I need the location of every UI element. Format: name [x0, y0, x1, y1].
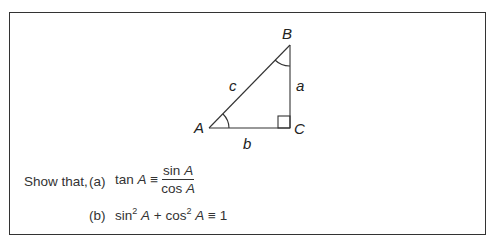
exponent: 2: [187, 206, 192, 216]
plus-sign: +: [154, 208, 162, 223]
identity-symbol: ≡: [150, 172, 158, 187]
side-a-label: a: [296, 77, 304, 94]
vertex-c-label: C: [294, 120, 305, 137]
numerator: sin A: [162, 163, 194, 180]
fraction: sin A cos A: [161, 163, 195, 196]
part-b-label: (b): [89, 208, 106, 223]
sin-fn: sin: [163, 163, 180, 178]
denominator: cos A: [161, 180, 195, 196]
side-c-label: c: [229, 77, 237, 94]
cos-fn: cos: [165, 208, 186, 223]
var-a: A: [184, 163, 193, 178]
vertex-b-label: B: [282, 25, 292, 42]
angle-b-arc: [275, 60, 290, 66]
side-b-label: b: [243, 135, 251, 152]
tan-fn: tan: [115, 172, 134, 187]
vertex-a-label: A: [193, 119, 204, 136]
part-a-equation: tan A ≡ sin A cos A: [115, 163, 195, 196]
angle-a-arc: [223, 114, 229, 128]
var-a: A: [195, 208, 204, 223]
exponent: 2: [132, 206, 137, 216]
right-triangle-diagram: A B C a b c: [0, 0, 496, 242]
sin-fn: sin: [115, 208, 132, 223]
var-a: A: [138, 172, 147, 187]
var-a: A: [141, 208, 150, 223]
prompt-text: Show that,: [24, 174, 88, 189]
right-angle-marker: [278, 116, 290, 128]
identity-symbol: ≡: [208, 208, 216, 223]
var-a: A: [186, 181, 195, 196]
part-a-label: (a): [89, 174, 106, 189]
part-b-equation: sin2 A + cos2 A ≡ 1: [115, 208, 227, 223]
cos-fn: cos: [161, 181, 182, 196]
rhs-value: 1: [220, 208, 228, 223]
